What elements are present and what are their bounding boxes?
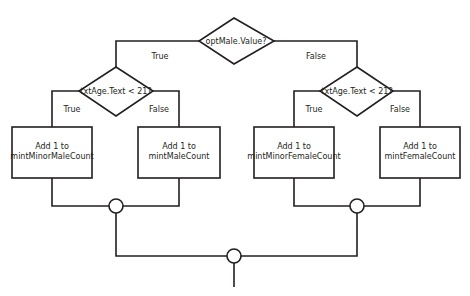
label-top-false: False [306, 52, 326, 61]
decision-right: txtAge.Text < 21? [320, 67, 393, 116]
process-line2: mintMinorMaleCount [10, 152, 93, 161]
connector-right-junction-bottom [241, 213, 357, 256]
decision-top: optMale.Value? [199, 18, 274, 64]
process-line2: mintFemaleCount [385, 152, 456, 161]
process-line1: Add 1 to [403, 142, 437, 151]
connector-box1-junction [52, 178, 109, 206]
junction-right-circle [350, 199, 364, 213]
connector-box2-junction [123, 178, 179, 206]
junction-left-circle [109, 199, 123, 213]
process-male: Add 1 to mintMaleCount [138, 127, 220, 178]
process-line1: Add 1 to [35, 142, 69, 151]
flowchart-canvas: optMale.Value? txtAge.Text < 21? txtAge.… [0, 0, 470, 296]
connector-left-junction-bottom [116, 213, 227, 256]
label-top-true: True [151, 52, 169, 61]
decision-left-text: txtAge.Text < 21? [80, 87, 151, 96]
decision-left: txtAge.Text < 21? [79, 67, 153, 116]
decision-right-text: txtAge.Text < 21? [321, 87, 392, 96]
process-minor-female: Add 1 to mintMinorFemaleCount [247, 127, 340, 178]
connector-box4-junction [364, 178, 420, 206]
label-left-true: True [63, 105, 81, 114]
label-right-true: True [305, 105, 323, 114]
label-left-false: False [149, 105, 169, 114]
connector-box3-junction [294, 178, 350, 206]
junction-bottom-circle [227, 249, 241, 263]
label-right-false: False [390, 105, 410, 114]
process-line2: mintMaleCount [149, 152, 210, 161]
process-line1: Add 1 to [162, 142, 196, 151]
process-line1: Add 1 to [277, 142, 311, 151]
process-minor-male: Add 1 to mintMinorMaleCount [10, 127, 93, 178]
process-female: Add 1 to mintFemaleCount [380, 127, 460, 178]
process-line2: mintMinorFemaleCount [247, 152, 340, 161]
decision-top-text: optMale.Value? [206, 37, 267, 46]
